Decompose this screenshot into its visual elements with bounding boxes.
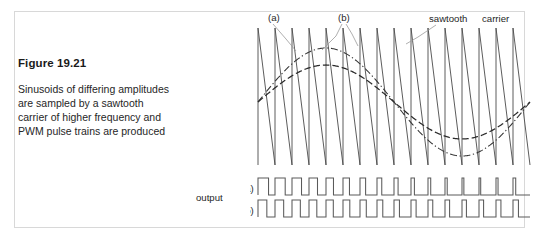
label-carrier: carrier [482, 13, 510, 24]
leader-lines [273, 24, 436, 51]
leader-line-b-right [346, 24, 358, 46]
waveform-diagram: (a) (b) sawtooth carrier (a) (b) [250, 0, 538, 239]
pulse-train-b-path [258, 200, 530, 217]
pulse-train-a [258, 178, 530, 195]
pulse-train-a-path [258, 178, 530, 195]
label-signal-b: (b) [338, 12, 350, 23]
sawtooth-path [258, 28, 530, 165]
sawtooth-carrier-waveform [258, 28, 530, 165]
figure-title: Figure 19.21 [18, 57, 248, 69]
waveform-plot-area: (a) (b) sawtooth carrier (a) (b) [250, 0, 538, 239]
pulse-train-b [258, 200, 530, 217]
label-output-a: (a) [250, 183, 254, 194]
figure-caption: Sinusoids of differing amplitudes are sa… [18, 82, 248, 138]
leader-line-sawtooth [406, 25, 436, 44]
label-output-b: (b) [250, 205, 254, 216]
label-sawtooth: sawtooth [429, 13, 467, 24]
output-label: output [196, 192, 223, 203]
leader-line-b-left [322, 24, 342, 50]
caption-block: Figure 19.21 Sinusoids of differing ampl… [18, 57, 248, 138]
label-signal-a: (a) [268, 12, 280, 23]
